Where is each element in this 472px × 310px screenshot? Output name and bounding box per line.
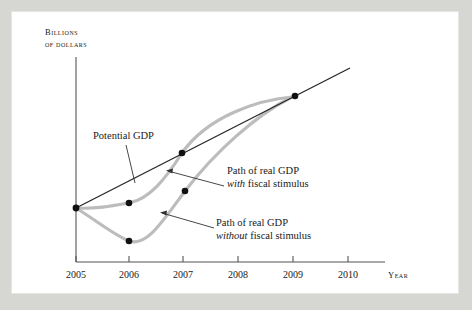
annotation-without-rest: fiscal stimulus bbox=[248, 230, 312, 241]
x-tick-label-2009: 2009 bbox=[273, 269, 313, 280]
marker-2005-origin bbox=[73, 205, 80, 212]
annotation-without-stimulus-line1: Path of real GDP bbox=[216, 216, 311, 229]
annotation-without-stimulus: Path of real GDP without fiscal stimulus bbox=[216, 216, 311, 243]
x-tick-label-2005: 2005 bbox=[56, 269, 96, 280]
x-axis-label: Year bbox=[388, 270, 408, 280]
annotation-without-emphasis: without bbox=[216, 230, 248, 241]
x-tick-label-2010: 2010 bbox=[328, 269, 368, 280]
annotation-with-rest: fiscal stimulus bbox=[245, 178, 309, 189]
annotation-with-emphasis: with bbox=[227, 178, 245, 189]
annotation-with-stimulus-line1: Path of real GDP bbox=[227, 164, 309, 177]
x-tick-label-2007: 2007 bbox=[163, 269, 203, 280]
x-axis-ticks bbox=[76, 256, 348, 262]
y-axis-label-line2: of dollars bbox=[45, 40, 87, 49]
x-tick-label-2008: 2008 bbox=[218, 269, 258, 280]
annotation-without-stimulus-line2: without fiscal stimulus bbox=[216, 229, 311, 242]
annotation-with-stimulus: Path of real GDP with fiscal stimulus bbox=[227, 164, 309, 191]
y-axis-label-line1: Billions bbox=[45, 27, 78, 37]
marker-2006-with bbox=[126, 200, 133, 207]
annotation-potential-gdp: Potential GDP bbox=[93, 129, 154, 142]
marker-2009-potential bbox=[292, 93, 299, 100]
x-tick-label-2006: 2006 bbox=[109, 269, 149, 280]
marker-2007-without bbox=[182, 188, 189, 195]
marker-2006-without bbox=[126, 238, 133, 245]
leader-line-potential-gdp bbox=[126, 145, 135, 183]
annotation-with-stimulus-line2: with fiscal stimulus bbox=[227, 177, 309, 190]
chart-screenshot: Billions of dollars 2005 2006 2007 2008 … bbox=[0, 0, 472, 310]
marker-2007-with bbox=[179, 150, 186, 157]
